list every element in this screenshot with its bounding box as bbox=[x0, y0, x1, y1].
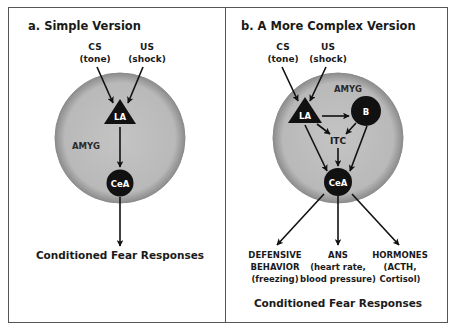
output-defensive-line3: (freezing) bbox=[251, 274, 298, 284]
panel-a-title: a. Simple Version bbox=[28, 19, 141, 33]
output-ans-line1: ANS bbox=[328, 250, 348, 260]
output-defensive-line1: DEFENSIVE bbox=[248, 250, 301, 260]
output-hormones-line2: (ACTH, bbox=[384, 262, 417, 272]
panel-b-footer: Conditioned Fear Responses bbox=[254, 297, 422, 309]
panel-a-us-detail: (shock) bbox=[128, 54, 166, 64]
panel-b-cs-detail: (tone) bbox=[267, 54, 298, 64]
output-hormones-line1: HORMONES bbox=[372, 250, 428, 260]
panel-b-cea-label: CeA bbox=[329, 178, 348, 188]
panel-b-amyg-label: AMYG bbox=[334, 84, 362, 94]
panel-b-cs-label: CS bbox=[276, 42, 289, 52]
panel-a-la-label: LA bbox=[114, 112, 126, 122]
panel-a-output-label: Conditioned Fear Responses bbox=[36, 249, 204, 261]
panel-b-title: b. A More Complex Version bbox=[241, 19, 416, 33]
output-ans-line2: (heart rate, bbox=[310, 262, 366, 272]
panel-b-itc-label: ITC bbox=[330, 136, 346, 146]
output-ans-line3: blood pressure) bbox=[300, 274, 376, 284]
panel-a-cs-detail: (tone) bbox=[79, 54, 110, 64]
output-hormones-line3: Cortisol) bbox=[380, 274, 421, 284]
panel-b-us-detail: (shock) bbox=[309, 54, 347, 64]
panel-a-us-label: US bbox=[140, 42, 154, 52]
panel-b-us-label: US bbox=[321, 42, 335, 52]
panel-a-cs-label: CS bbox=[88, 42, 101, 52]
output-defensive-line2: BEHAVIOR bbox=[251, 262, 300, 272]
panel-a-amyg-label: AMYG bbox=[72, 141, 100, 151]
panel-b-b-label: B bbox=[363, 107, 369, 117]
panel-b-la-label: LA bbox=[299, 111, 311, 121]
panel-a-cea-label: CeA bbox=[111, 179, 130, 189]
fear-conditioning-figure: a. Simple Version CS (tone) US (shock) A… bbox=[0, 0, 455, 330]
